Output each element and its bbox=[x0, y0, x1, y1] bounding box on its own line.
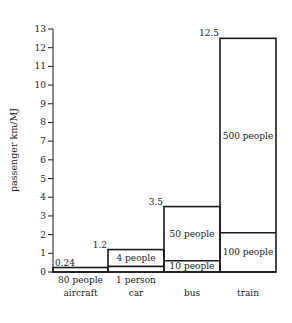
bars: 0.2480 peopleaircraft1.21 person4 people… bbox=[53, 28, 276, 298]
segment-label-lower: 1 person bbox=[116, 275, 156, 285]
bar-total-label: 12.5 bbox=[199, 28, 219, 38]
segment-label-lower: 10 people bbox=[170, 261, 215, 271]
y-tick-label: 10 bbox=[35, 80, 47, 90]
y-tick-label: 5 bbox=[40, 174, 46, 184]
category-label: bus bbox=[184, 288, 201, 298]
y-axis-ticks: 012345678910111213 bbox=[35, 24, 53, 277]
bar-total-label: 3.5 bbox=[149, 197, 164, 207]
y-tick-label: 7 bbox=[40, 136, 46, 146]
bar-train: 12.5100 people500 peopletrain bbox=[199, 28, 276, 298]
segment-label-upper: 50 people bbox=[170, 229, 215, 239]
bar-car: 1.21 person4 peoplecar bbox=[93, 240, 164, 298]
bar-total-label: 1.2 bbox=[93, 240, 107, 250]
bar-total-label: 0.24 bbox=[55, 258, 75, 268]
segment-label-lower: 100 people bbox=[223, 247, 274, 257]
segment-label-upper: 500 people bbox=[223, 131, 274, 141]
segment-label-lower: 80 people bbox=[58, 275, 103, 285]
y-tick-label: 6 bbox=[40, 155, 46, 165]
bar-bus: 3.510 people50 peoplebus bbox=[149, 197, 220, 298]
bar-chart: 012345678910111213 0.2480 peopleaircraft… bbox=[0, 0, 292, 323]
y-tick-label: 8 bbox=[40, 117, 46, 127]
category-label: train bbox=[237, 288, 259, 298]
segment-label-upper: 4 people bbox=[116, 253, 155, 263]
y-tick-label: 13 bbox=[35, 24, 47, 34]
y-tick-label: 12 bbox=[35, 43, 46, 53]
y-tick-label: 4 bbox=[40, 192, 46, 202]
y-tick-label: 3 bbox=[40, 211, 46, 221]
y-tick-label: 1 bbox=[40, 248, 46, 258]
category-label: car bbox=[129, 288, 144, 298]
y-axis-title: passenger km/MJ bbox=[8, 108, 19, 192]
y-tick-label: 2 bbox=[40, 230, 46, 240]
bar-outline bbox=[220, 38, 276, 272]
category-label: aircraft bbox=[63, 288, 98, 298]
y-tick-label: 0 bbox=[40, 267, 46, 277]
y-tick-label: 9 bbox=[40, 99, 46, 109]
y-tick-label: 11 bbox=[35, 61, 46, 71]
bar-aircraft: 0.2480 peopleaircraft bbox=[53, 258, 108, 298]
